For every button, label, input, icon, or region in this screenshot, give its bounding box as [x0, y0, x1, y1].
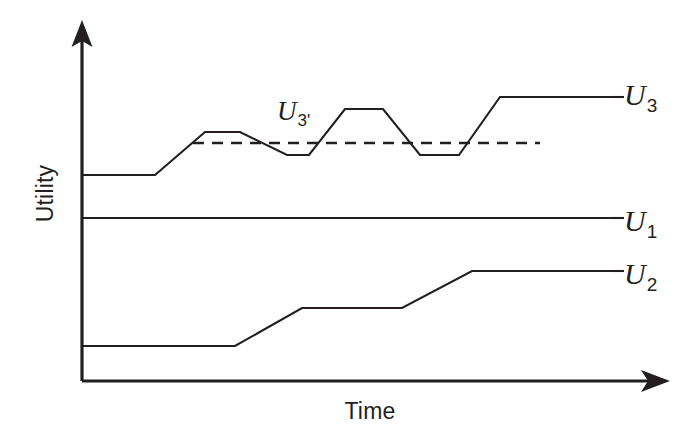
series-label-u2-base: U — [624, 257, 646, 290]
x-axis — [82, 370, 670, 392]
series-label-u1: U1 — [624, 206, 657, 241]
series-label-u3-subscript: 3 — [647, 95, 658, 116]
series-line-u3 — [82, 97, 612, 175]
series-line-u2 — [82, 271, 612, 346]
series-label-u2-subscript: 2 — [647, 274, 658, 295]
series-label-u1-base: U — [624, 204, 646, 237]
series-label-u3: U3 — [624, 80, 657, 115]
series-label-u2: U2 — [624, 259, 657, 294]
reference-label-u3-prime-base: U — [277, 96, 297, 126]
y-axis-title: Utility — [32, 144, 59, 244]
series-label-u3-base: U — [624, 78, 646, 111]
x-axis-title: Time — [315, 398, 425, 425]
reference-label-u3-prime-subscript: 3' — [298, 111, 311, 130]
utility-over-time-chart: Utility Time U3 U1 U2 U3' — [0, 0, 698, 441]
series-label-u1-subscript: 1 — [647, 221, 658, 242]
y-axis — [72, 20, 93, 381]
reference-label-u3-prime: U3' — [277, 98, 310, 129]
chart-plot-area — [0, 0, 698, 441]
